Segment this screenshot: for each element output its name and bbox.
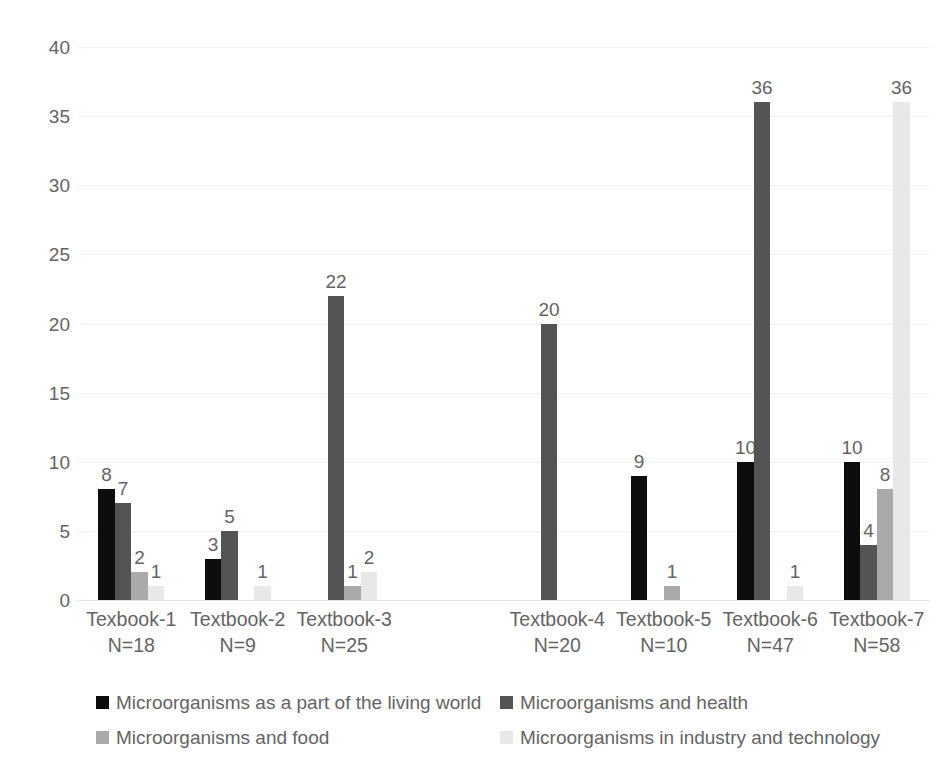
bar-slot (574, 47, 591, 600)
x-axis-category-label: Textbook-2N=9 (185, 606, 292, 658)
bar-slot: 2 (361, 47, 378, 600)
category-name: Texbook-1 (86, 608, 176, 630)
bar[interactable] (131, 572, 148, 600)
bar-slot (311, 47, 328, 600)
bar[interactable] (737, 462, 754, 600)
x-axis-category-label: Textbook-5N=10 (611, 606, 718, 658)
bar-value-label: 7 (118, 479, 129, 498)
legend-color-swatch-icon (500, 696, 513, 709)
bar-group: 91 (611, 47, 718, 600)
category-sample-size: N=9 (185, 632, 292, 658)
bar-slot (238, 47, 255, 600)
category-name: Textbook-5 (616, 608, 711, 630)
bar-chart: 0510152025303540 87213512212209110361104… (0, 0, 938, 776)
bar[interactable] (205, 559, 222, 600)
y-axis-tick-label: 35 (22, 107, 70, 126)
bar-group (398, 47, 505, 600)
bar[interactable] (787, 586, 804, 600)
bar-slot (418, 47, 435, 600)
y-axis-tick-label: 15 (22, 383, 70, 402)
category-name: Textbook-3 (297, 608, 392, 630)
category-sample-size: N=18 (78, 632, 185, 658)
bar[interactable] (860, 545, 877, 600)
bar-slot: 3 (205, 47, 222, 600)
bar-value-label: 3 (208, 535, 219, 554)
legend-color-swatch-icon (96, 696, 109, 709)
bar-slot (680, 47, 697, 600)
category-sample-size: N=47 (717, 632, 824, 658)
legend-item[interactable]: Microorganisms and health (500, 692, 748, 713)
bar-slot: 7 (115, 47, 132, 600)
y-axis: 0510152025303540 (14, 47, 70, 600)
bar-group: 2212 (291, 47, 398, 600)
y-axis-tick-label: 40 (22, 38, 70, 57)
legend-item[interactable]: Microorganisms as a part of the living w… (96, 692, 481, 713)
bar-slot (770, 47, 787, 600)
bar-slot (467, 47, 484, 600)
bar-slot: 8 (877, 47, 894, 600)
bar-value-label: 1 (151, 562, 162, 581)
category-name: Textbook-7 (829, 608, 924, 630)
legend-color-swatch-icon (500, 731, 513, 744)
bar-value-label: 2 (134, 548, 145, 567)
bar-value-label: 2 (364, 548, 375, 567)
bar[interactable] (754, 102, 771, 600)
bar-slot: 1 (787, 47, 804, 600)
bar-value-label: 8 (101, 465, 112, 484)
x-axis-labels: Texbook-1N=18Textbook-2N=9Textbook-3N=25… (78, 606, 930, 676)
bar[interactable] (98, 489, 115, 600)
legend-color-swatch-icon (96, 731, 109, 744)
bar-slot: 20 (541, 47, 558, 600)
bar-group: 104836 (824, 47, 931, 600)
category-name: Textbook-2 (190, 608, 285, 630)
bar-slot: 1 (664, 47, 681, 600)
plot-area: 87213512212209110361104836 (78, 47, 930, 600)
bar-slot: 22 (328, 47, 345, 600)
bar[interactable] (328, 296, 345, 600)
bar[interactable] (254, 586, 271, 600)
x-axis-category-label: Texbook-1N=18 (78, 606, 185, 658)
bar-value-label: 4 (863, 521, 874, 540)
bar-slot (451, 47, 468, 600)
bar[interactable] (344, 586, 361, 600)
bar[interactable] (664, 586, 681, 600)
bar[interactable] (221, 531, 238, 600)
legend-item-label: Microorganisms in industry and technolog… (520, 727, 880, 748)
y-axis-tick-label: 10 (22, 452, 70, 471)
bar-group: 351 (185, 47, 292, 600)
bar-value-label: 1 (667, 562, 678, 581)
legend-item-label: Microorganisms as a part of the living w… (116, 692, 481, 713)
x-axis-category-label: Textbook-3N=25 (291, 606, 398, 658)
bar-value-label: 8 (880, 465, 891, 484)
bar-value-label: 5 (224, 507, 235, 526)
bar[interactable] (877, 489, 894, 600)
chart-legend: Microorganisms as a part of the living w… (96, 692, 896, 762)
bar-slot: 8 (98, 47, 115, 600)
bar[interactable] (844, 462, 861, 600)
y-axis-tick-label: 20 (22, 314, 70, 333)
bar-value-label: 1 (790, 562, 801, 581)
bar-slot: 2 (131, 47, 148, 600)
bar[interactable] (361, 572, 378, 600)
bar-value-label: 1 (347, 562, 358, 581)
bar[interactable] (541, 324, 558, 601)
category-sample-size: N=10 (611, 632, 718, 658)
bar[interactable] (631, 476, 648, 600)
legend-item[interactable]: Microorganisms in industry and technolog… (500, 727, 880, 748)
bar[interactable] (115, 503, 132, 600)
bar-group: 8721 (78, 47, 185, 600)
bar-slot (524, 47, 541, 600)
y-axis-tick-label: 5 (22, 521, 70, 540)
bar-slot: 1 (344, 47, 361, 600)
category-sample-size: N=20 (504, 632, 611, 658)
bar[interactable] (148, 586, 165, 600)
bar-slot (647, 47, 664, 600)
bar-group: 20 (504, 47, 611, 600)
legend-item[interactable]: Microorganisms and food (96, 727, 329, 748)
bar-value-label: 9 (634, 452, 645, 471)
bar[interactable] (893, 102, 910, 600)
legend-item-label: Microorganisms and food (116, 727, 329, 748)
x-axis-category-label: Textbook-7N=58 (824, 606, 931, 658)
x-axis-category-label: Textbook-4N=20 (504, 606, 611, 658)
bar-group: 10361 (717, 47, 824, 600)
